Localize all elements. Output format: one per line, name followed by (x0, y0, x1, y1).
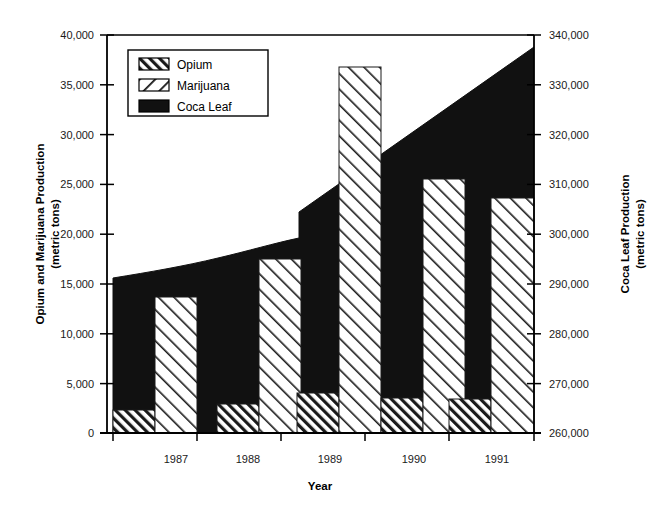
legend-swatch-coca-leaf (139, 100, 169, 112)
right-tick-label: 340,000 (549, 29, 589, 41)
left-tick-label: 0 (88, 427, 94, 439)
bar-marijuana-1991[interactable] (491, 198, 534, 433)
right-tick-label: 300,000 (549, 228, 589, 240)
legend-label-marijuana: Marijuana (177, 79, 230, 93)
x-tick-label-1990: 1990 (402, 453, 426, 465)
bar-opium-1991[interactable] (449, 399, 491, 433)
production-chart: 40,000 35,000 30,000 25,000 20,000 15,00… (0, 0, 669, 512)
right-tick-label: 270,000 (549, 378, 589, 390)
right-tick-label: 310,000 (549, 178, 589, 190)
right-tick-label: 280,000 (549, 328, 589, 340)
right-tick-label: 260,000 (549, 427, 589, 439)
bar-marijuana-1990[interactable] (423, 179, 465, 433)
x-tick-label-1991: 1991 (485, 453, 509, 465)
x-tick-label-1987: 1987 (164, 453, 188, 465)
x-axis-title: Year (308, 480, 333, 492)
left-axis-title-line2: (metric tons) (49, 199, 61, 269)
right-axis-title-line1: Coca Leaf Production (619, 175, 631, 294)
bar-opium-1989[interactable] (297, 393, 339, 433)
left-tick-label: 40,000 (60, 29, 94, 41)
bar-marijuana-1989[interactable] (339, 67, 381, 433)
legend-label-coca-leaf: Coca Leaf (177, 100, 232, 114)
left-axis-title-line1: Opium and Marijuana Production (34, 144, 46, 325)
x-tick-label-1988: 1988 (236, 453, 260, 465)
left-tick-label: 10,000 (60, 328, 94, 340)
right-tick-label: 290,000 (549, 278, 589, 290)
left-tick-label: 30,000 (60, 129, 94, 141)
bar-marijuana-1987[interactable] (155, 297, 197, 433)
left-tick-label: 15,000 (60, 278, 94, 290)
left-tick-label: 20,000 (60, 228, 94, 240)
legend-swatch-opium (139, 58, 169, 70)
legend-label-opium: Opium (177, 58, 212, 72)
bar-marijuana-1988[interactable] (259, 259, 301, 433)
right-tick-label: 330,000 (549, 79, 589, 91)
legend-swatch-marijuana (139, 79, 169, 91)
left-tick-label: 35,000 (60, 79, 94, 91)
bar-opium-1990[interactable] (381, 398, 423, 433)
chart-legend: Opium Marijuana Coca Leaf (128, 50, 268, 116)
right-tick-label: 320,000 (549, 129, 589, 141)
chart-container: 40,000 35,000 30,000 25,000 20,000 15,00… (0, 0, 669, 512)
left-tick-label: 25,000 (60, 178, 94, 190)
right-axis-title-line2: (metric tons) (634, 199, 646, 269)
x-tick-label-1989: 1989 (318, 453, 342, 465)
bar-opium-1987[interactable] (113, 410, 155, 433)
right-axis-tick-labels: 340,000 330,000 320,000 310,000 300,000 … (549, 29, 589, 439)
left-tick-label: 5,000 (66, 378, 94, 390)
bar-opium-1988[interactable] (217, 404, 259, 433)
